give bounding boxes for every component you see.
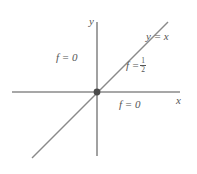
- fraction-denominator: 2: [140, 66, 146, 74]
- annotation-f-equals-zero-upper-left: f = 0: [56, 52, 77, 63]
- x-axis-label: x: [176, 95, 181, 106]
- origin-point-marker: [94, 89, 101, 96]
- line-y-equals-x: [32, 22, 168, 158]
- annotation-f-equals-one-half: f =12: [126, 57, 146, 74]
- y-axis-label: y: [89, 16, 94, 27]
- figure-canvas: [0, 0, 197, 174]
- annotation-f-equals-zero-lower-right: f = 0: [119, 99, 140, 110]
- f-half-relation: f =: [126, 59, 139, 71]
- curve-label-y-equals-x: y = x: [146, 31, 169, 42]
- coordinate-plane-figure: y x f = 0 f = 0 f =12 y = x: [0, 0, 197, 174]
- fraction-one-half: 12: [140, 57, 146, 74]
